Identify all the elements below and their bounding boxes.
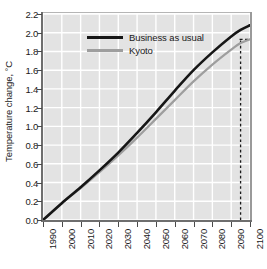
x-axis-tick-label: 2060 xyxy=(179,229,190,249)
y-axis-tick-mark xyxy=(37,14,42,15)
y-axis-tick-labels: 0.00.20.40.60.81.01.21.41.61.82.02.2 xyxy=(14,8,38,222)
x-axis-tick-mark xyxy=(156,222,157,227)
x-axis-tick-mark xyxy=(81,222,82,227)
x-axis-tick-mark xyxy=(137,222,138,227)
y-axis-tick-mark xyxy=(37,70,42,71)
y-axis-title-text: Temperature change, °C xyxy=(3,61,14,162)
axis-spine-left xyxy=(41,12,43,222)
x-axis-tick-mark xyxy=(250,222,251,227)
y-axis-tick-mark xyxy=(37,33,42,34)
chart-legend: Business as usual Kyoto xyxy=(87,31,204,57)
legend-label-kyoto: Kyoto xyxy=(129,45,153,56)
legend-swatch-kyoto xyxy=(87,49,123,52)
x-axis-tick-label: 2090 xyxy=(235,229,246,249)
x-axis-tick-label: 2030 xyxy=(122,229,133,249)
annotation-layer xyxy=(240,39,250,220)
legend-item-business-as-usual: Business as usual xyxy=(87,31,204,44)
axis-spine-top xyxy=(43,12,251,13)
chart-figure: Temperature change, °C 0.00.20.40.60.81.… xyxy=(0,0,267,269)
x-axis-tick-label: 2050 xyxy=(160,229,171,249)
x-axis-tick-mark xyxy=(43,222,44,227)
x-axis-tick-label: 1990 xyxy=(47,229,58,249)
x-axis-tick-label: 2070 xyxy=(198,229,209,249)
x-axis-tick-mark xyxy=(62,222,63,227)
y-axis-tick-mark xyxy=(37,145,42,146)
y-axis-tick-mark xyxy=(37,108,42,109)
legend-swatch-business-as-usual xyxy=(87,36,123,39)
axis-spine-right xyxy=(250,12,252,222)
y-axis-tick-mark xyxy=(37,89,42,90)
y-axis-tick-mark xyxy=(37,126,42,127)
x-axis-tick-label: 2000 xyxy=(66,229,77,249)
x-axis-tick-label: 2100 xyxy=(254,229,265,249)
axis-spine-bottom xyxy=(41,220,252,222)
x-axis-tick-mark xyxy=(118,222,119,227)
y-axis-tick-mark xyxy=(37,183,42,184)
y-axis-tick-mark xyxy=(37,51,42,52)
x-axis-tick-mark xyxy=(212,222,213,227)
y-axis-tick-mark xyxy=(37,201,42,202)
legend-item-kyoto: Kyoto xyxy=(87,44,204,57)
x-axis-tick-label: 2010 xyxy=(85,229,96,249)
y-axis-tick-mark xyxy=(37,220,42,221)
x-axis-tick-mark xyxy=(175,222,176,227)
x-axis-tick-mark xyxy=(231,222,232,227)
x-axis-tick-mark xyxy=(99,222,100,227)
x-axis-tick-label: 2040 xyxy=(141,229,152,249)
x-axis-tick-label: 2020 xyxy=(103,229,114,249)
legend-label-business-as-usual: Business as usual xyxy=(129,32,204,43)
y-axis-tick-mark xyxy=(37,164,42,165)
x-axis-tick-mark xyxy=(194,222,195,227)
x-axis-tick-label: 2080 xyxy=(216,229,227,249)
